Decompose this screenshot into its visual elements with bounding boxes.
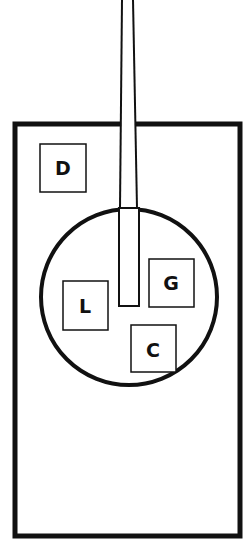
box-g-label: G: [163, 272, 179, 294]
box-c: C: [131, 325, 176, 372]
diagram-canvas: D G L C: [0, 0, 252, 554]
box-c-label: C: [146, 339, 160, 361]
box-d-label: D: [55, 157, 71, 179]
box-d: D: [40, 144, 86, 192]
box-g: G: [149, 259, 194, 307]
box-l-label: L: [79, 295, 91, 317]
box-l: L: [63, 281, 108, 330]
tube-probe: [119, 0, 139, 306]
